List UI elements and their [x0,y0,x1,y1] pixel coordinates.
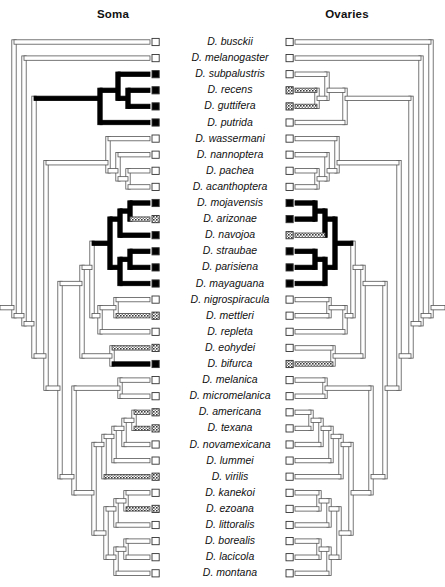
branch-horizontal [106,555,116,559]
branch-horizontal [116,314,150,318]
branch-horizontal [353,265,363,269]
character-state-box [152,71,159,78]
character-state-box [286,55,293,62]
branch-vertical [106,136,110,173]
character-state-box [286,554,293,561]
branch-horizontal [46,161,108,165]
branch-horizontal [100,330,150,334]
character-state-box [152,344,159,351]
character-state-box [286,570,293,577]
branch-horizontal [130,265,150,269]
character-state-box [152,167,159,174]
tree-ovaries [276,0,445,587]
branch-horizontal [295,426,311,430]
branch-horizontal [120,209,130,213]
character-state-box [152,328,159,335]
branch-horizontal [126,539,150,543]
branch-horizontal [295,346,333,350]
branch-horizontal [114,458,150,462]
taxon-label: D. borealis [174,535,286,546]
character-state-box [152,216,159,223]
branch-horizontal [24,322,34,326]
character-state-box [152,38,159,45]
branch-vertical [351,241,355,318]
character-state-box [286,312,293,319]
branch-horizontal [128,185,150,189]
branch-horizontal [92,241,110,245]
character-state-box [152,377,159,384]
branch-horizontal [319,499,329,503]
character-state-box [286,538,293,545]
branch-horizontal [295,314,329,318]
branch-horizontal [315,257,325,261]
taxon-label: D. nigrospiracula [174,294,286,305]
taxon-label: D. melanogaster [174,52,286,63]
character-state-box [152,521,159,528]
branch-horizontal [295,539,319,543]
taxon-label: D. lummei [174,455,286,466]
branch-horizontal [341,442,351,446]
character-state-box [152,55,159,62]
branch-horizontal [24,56,150,60]
branch-horizontal [295,523,329,527]
branch-horizontal [116,523,150,527]
taxon-label: D. montana [174,567,286,578]
character-state-box [152,538,159,545]
branch-horizontal [411,322,421,326]
branch-horizontal [295,571,329,575]
branch-horizontal [112,362,150,366]
taxon-label: D. novamexicana [174,439,286,450]
taxon-label: D. pachea [174,165,286,176]
branch-horizontal [317,96,327,100]
branch-horizontal [421,314,431,318]
branch-horizontal [130,201,150,205]
character-state-box [152,183,159,190]
branch-horizontal [120,394,150,398]
character-state-box [286,71,293,78]
branch-horizontal [120,378,150,382]
branch-vertical [12,40,16,318]
character-state-box [152,505,159,512]
character-state-box [152,393,159,400]
branch-vertical [98,88,102,125]
character-state-box [152,103,159,110]
branch-horizontal [106,507,116,511]
branch-horizontal [295,233,325,237]
character-state-box [286,264,293,271]
character-state-box [286,457,293,464]
character-state-box [152,119,159,126]
phylogeny-figure: Soma Ovaries D. busckiiD. melanogasterD.… [0,0,445,587]
branch-horizontal [114,426,124,430]
branch-horizontal [46,386,60,390]
branch-horizontal [345,96,411,100]
branch-horizontal [295,475,341,479]
character-state-box [286,248,293,255]
taxon-label: D. melanica [174,374,286,385]
branch-horizontal [118,177,128,181]
branch-horizontal [329,555,339,559]
branch-horizontal [295,136,337,140]
character-state-box [152,135,159,142]
branch-vertical [419,56,423,326]
branch-horizontal [120,281,150,285]
branch-horizontal [295,153,327,157]
character-state-box [152,151,159,158]
character-state-box [286,489,293,496]
branch-vertical [349,442,353,535]
branch-horizontal [327,169,337,173]
taxon-label: D. kanekoi [174,487,286,498]
branch-horizontal [126,555,150,559]
branch-vertical [80,265,84,358]
character-state-box [152,199,159,206]
branch-horizontal [134,410,150,414]
character-state-box [152,87,159,94]
branch-horizontal [295,185,317,189]
branch-horizontal [124,418,134,422]
branch-horizontal [431,305,445,309]
character-state-box [286,521,293,528]
character-state-box [152,264,159,271]
branch-horizontal [295,297,329,301]
branch-horizontal [295,281,325,285]
branch-horizontal [104,434,114,438]
character-state-box [286,232,293,239]
